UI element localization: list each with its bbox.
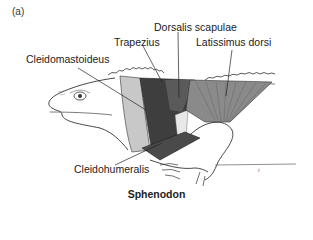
label-dorsalis-scapulae: Dorsalis scapulae: [154, 22, 237, 33]
ground-line: [215, 164, 296, 165]
mouth-line: [50, 112, 112, 115]
latissimus-dorsi-muscle: [186, 80, 272, 122]
svg-text:ℓ: ℓ: [257, 167, 260, 173]
label-trapezius: Trapezius: [114, 37, 160, 48]
label-latissimus-dorsi: Latissimus dorsi: [196, 37, 271, 48]
label-cleidohumeralis: Cleidohumeralis: [74, 164, 149, 175]
label-cleidomastoideus: Cleidomastoideus: [26, 54, 109, 65]
figure-caption: Sphenodon: [0, 188, 313, 200]
hand: [160, 164, 205, 187]
leader-trapezius: [143, 46, 162, 82]
head-outline: [49, 78, 128, 150]
